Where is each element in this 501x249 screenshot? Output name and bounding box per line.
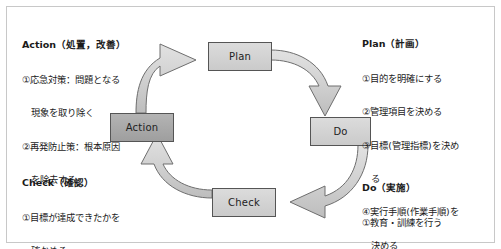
check-line-2: 確かめる: [22, 245, 182, 249]
text-block-do: Do（実施） ①教育・訓練を行う ②実行手順どおりに実行 する: [362, 161, 494, 249]
action-line-2: 現象を取り除く: [22, 107, 182, 119]
plan-heading: Plan（計画）: [362, 38, 494, 51]
plan-line-1: ①目的を明確にする: [362, 73, 494, 85]
node-check-label-text: Check: [228, 197, 260, 208]
do-heading: Do（実施）: [362, 182, 494, 195]
pdca-diagram: Plan Do Check Action Action（処置，改善） ①応急対策…: [0, 0, 501, 249]
check-line-1: ①目標が達成できたかを: [22, 212, 182, 224]
plan-line-2: ②管理項目を決める: [362, 106, 494, 118]
node-plan-label-text: Plan: [229, 51, 251, 62]
check-heading: Check（確認）: [22, 177, 182, 190]
node-plan-label: Plan: [208, 42, 272, 71]
text-block-check: Check（確認） ①目標が達成できたかを 確かめる ②ほかに不具合はないか を…: [22, 156, 182, 249]
do-line-1: ①教育・訓練を行う: [362, 217, 494, 229]
action-line-3: ②再発防止策：根本原因: [22, 141, 182, 153]
action-heading: Action（処置，改善）: [22, 39, 182, 52]
action-line-1: ①応急対策：問題となる: [22, 74, 182, 86]
node-do-label-text: Do: [333, 126, 347, 137]
plan-line-3: ③目標(管理指標)を決め: [362, 140, 494, 152]
node-check-label: Check: [212, 188, 276, 217]
